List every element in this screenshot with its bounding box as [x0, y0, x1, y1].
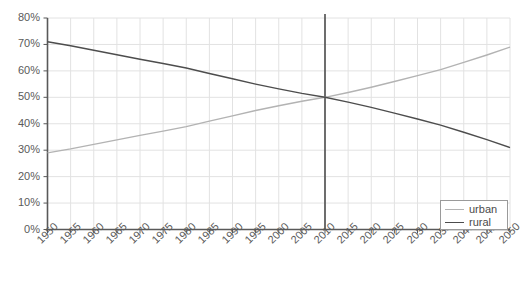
y-axis-tick-label: 40%	[0, 118, 40, 129]
gridlines	[48, 18, 511, 230]
y-axis-tick-label: 20%	[0, 171, 40, 182]
chart-legend: urban rural	[440, 200, 508, 230]
y-axis-tick-label: 50%	[0, 91, 40, 102]
legend-label-rural: rural	[469, 217, 491, 228]
chart-canvas	[0, 0, 530, 281]
legend-label-urban: urban	[469, 204, 497, 215]
y-axis-tick-label: 10%	[0, 197, 40, 208]
y-axis-tick-label: 30%	[0, 144, 40, 155]
y-axis-tick-label: 60%	[0, 65, 40, 76]
y-axis-tick-label: 80%	[0, 12, 40, 23]
line-chart: 0%10%20%30%40%50%60%70%80% 1950195519601…	[0, 0, 530, 281]
legend-swatch-urban	[445, 209, 464, 210]
legend-swatch-rural	[445, 222, 464, 223]
legend-item-rural: rural	[445, 216, 491, 229]
y-axis-tick-label: 0%	[0, 224, 40, 235]
legend-item-urban: urban	[445, 203, 497, 216]
y-axis-tick-label: 70%	[0, 38, 40, 49]
